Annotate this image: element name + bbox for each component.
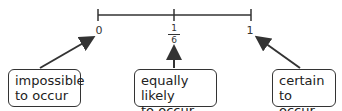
tick-label-one-sixth: 1 6 — [168, 24, 180, 45]
callout-line2: to occur — [15, 88, 74, 103]
callout-line1: certain to — [279, 73, 329, 103]
callout-equally-likely: equally likely to occur — [134, 69, 217, 107]
callout-line1: equally likely — [141, 73, 210, 103]
callout-certain: certain to occur — [272, 69, 336, 107]
tick-label-1: 1 — [245, 24, 255, 37]
callout-line1: impossible — [15, 73, 74, 88]
callout-impossible: impossible to occur — [8, 69, 81, 107]
callout-line2: occur — [279, 103, 329, 111]
fraction-numerator: 1 — [168, 24, 180, 33]
fraction-denominator: 6 — [168, 36, 180, 45]
tick-label-0: 0 — [94, 24, 104, 37]
callout-line2: to occur — [141, 103, 210, 111]
arrow-impossible — [40, 38, 92, 68]
arrow-certain — [258, 38, 300, 68]
